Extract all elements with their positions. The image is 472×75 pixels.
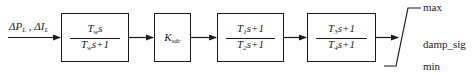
limiter-max-label: max xyxy=(423,1,442,13)
input-signal-label: ΔPL , ΔIL xyxy=(9,20,48,36)
lead-lag-2-block: T3s+1 T4s+1 xyxy=(307,13,376,62)
lead-lag-1-denominator: T2s+1 xyxy=(218,38,283,54)
gain-block: Ksdc xyxy=(154,13,191,62)
washout-denominator: Tws+1 xyxy=(62,38,128,54)
lead-lag-2-numerator: T3s+1 xyxy=(308,22,375,38)
washout-numerator: Tws xyxy=(62,22,128,38)
output-signal-label: damp_sig xyxy=(423,38,466,50)
lead-lag-1-block: T1s+1 T2s+1 xyxy=(217,13,284,62)
lead-lag-1-numerator: T1s+1 xyxy=(218,22,283,38)
lead-lag-2-denominator: T4s+1 xyxy=(308,38,375,54)
washout-block: Tws Tws+1 xyxy=(61,13,129,62)
gain-label: Ksdc xyxy=(155,31,190,45)
limiter-min-label: min xyxy=(423,60,440,72)
